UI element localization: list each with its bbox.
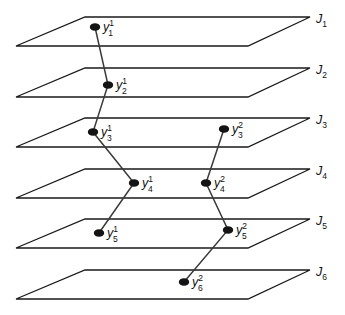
figure-root: J1J2J3J4J5J6 y11y12y13y14y15y23y24y25y26 bbox=[0, 0, 345, 315]
plane-label-j3: J3 bbox=[315, 113, 327, 130]
plane-j2 bbox=[16, 68, 310, 97]
node-marker-y-5-2 bbox=[223, 226, 233, 234]
node-label-y-5-1: y15 bbox=[106, 224, 118, 245]
node-label-y-3-2: y23 bbox=[231, 120, 243, 141]
plane-label-j2: J2 bbox=[315, 63, 327, 80]
chain-2 bbox=[184, 129, 228, 282]
node-marker-y-2-1 bbox=[103, 81, 113, 89]
node-label-y-3-1: y13 bbox=[100, 123, 112, 144]
node-label-y-6-2: y26 bbox=[191, 273, 203, 294]
node-marker-y-6-2 bbox=[179, 278, 189, 286]
planes-group bbox=[16, 17, 310, 299]
node-label-y-4-2: y24 bbox=[213, 174, 225, 195]
node-label-y-1-1: y11 bbox=[102, 18, 114, 39]
layered-planes-diagram: J1J2J3J4J5J6 y11y12y13y14y15y23y24y25y26 bbox=[0, 0, 345, 315]
node-marker-y-4-1 bbox=[129, 179, 139, 187]
plane-j1 bbox=[16, 17, 310, 46]
node-marker-y-3-2 bbox=[219, 125, 229, 133]
plane-j3 bbox=[16, 118, 310, 147]
nodes-group bbox=[88, 23, 233, 286]
node-label-y-2-1: y12 bbox=[115, 76, 127, 97]
plane-label-j6: J6 bbox=[315, 265, 327, 282]
plane-j6 bbox=[16, 270, 310, 299]
node-labels-group: y11y12y13y14y15y23y24y25y26 bbox=[100, 18, 247, 294]
node-marker-y-3-1 bbox=[88, 128, 98, 136]
plane-labels-group: J1J2J3J4J5J6 bbox=[315, 12, 327, 282]
node-label-y-4-1: y14 bbox=[141, 174, 153, 195]
node-marker-y-5-1 bbox=[94, 229, 104, 237]
plane-label-j4: J4 bbox=[315, 164, 327, 181]
plane-j4 bbox=[16, 169, 310, 198]
plane-j5 bbox=[16, 219, 310, 248]
plane-label-j1: J1 bbox=[315, 12, 327, 29]
chain-1 bbox=[93, 27, 134, 233]
plane-label-j5: J5 bbox=[315, 214, 327, 231]
node-marker-y-1-1 bbox=[90, 23, 100, 31]
node-marker-y-4-2 bbox=[201, 179, 211, 187]
node-label-y-5-2: y25 bbox=[235, 221, 247, 242]
